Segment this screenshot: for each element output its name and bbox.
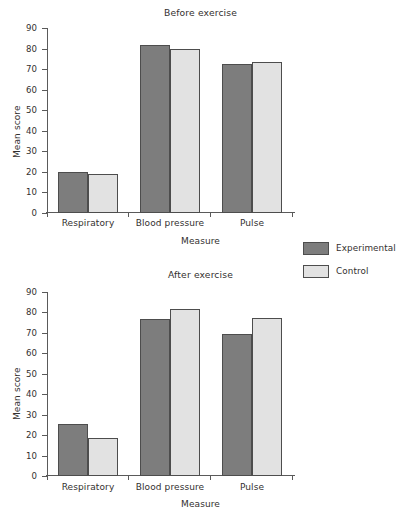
y-axis-tick xyxy=(42,456,47,457)
y-axis-tick xyxy=(42,353,47,354)
y-axis-tick-label: 60 xyxy=(26,348,37,358)
plot-area-after: 0102030405060708090 xyxy=(47,292,293,476)
y-axis-tick xyxy=(42,172,47,173)
legend-item-control: Control xyxy=(303,264,399,278)
bar-experimental-respiratory xyxy=(58,172,88,213)
y-axis-tick-label: 50 xyxy=(26,105,37,115)
y-axis-tick xyxy=(42,374,47,375)
x-axis-tick xyxy=(47,213,48,217)
legend-item-experimental: Experimental xyxy=(303,241,399,255)
y-axis-tick xyxy=(42,90,47,91)
y-axis-tick xyxy=(42,49,47,50)
legend-swatch-control xyxy=(303,265,329,278)
y-axis-tick xyxy=(42,435,47,436)
y-axis-tick xyxy=(42,292,47,293)
x-axis-label-after: Measure xyxy=(0,499,401,509)
x-axis-category-label: Blood pressure xyxy=(136,218,205,228)
y-axis-tick-label: 30 xyxy=(26,146,37,156)
bar-experimental-respiratory xyxy=(58,424,88,476)
x-axis-tick xyxy=(128,213,129,217)
x-axis-tick xyxy=(128,476,129,480)
legend-label-experimental: Experimental xyxy=(336,243,396,253)
y-axis-tick xyxy=(42,69,47,70)
y-axis-tick-label: 0 xyxy=(32,471,37,481)
y-axis-tick-label: 70 xyxy=(26,328,37,338)
y-axis-tick-label: 20 xyxy=(26,430,37,440)
chart-title-before: Before exercise xyxy=(0,7,401,18)
y-axis-tick-label: 10 xyxy=(26,187,37,197)
x-axis-tick xyxy=(292,476,293,480)
y-axis-tick-label: 90 xyxy=(26,287,37,297)
y-axis-tick xyxy=(42,415,47,416)
bar-experimental-pulse xyxy=(222,64,252,213)
y-axis-tick-label: 90 xyxy=(26,23,37,33)
legend-label-control: Control xyxy=(336,266,369,276)
bar-experimental-blood-pressure xyxy=(140,319,170,476)
y-axis-tick xyxy=(42,151,47,152)
y-axis-tick-label: 40 xyxy=(26,126,37,136)
y-axis-tick-label: 80 xyxy=(26,44,37,54)
chart-legend: Experimental Control xyxy=(303,241,399,287)
x-axis-tick xyxy=(210,476,211,480)
y-axis-tick xyxy=(42,394,47,395)
x-axis-category-label: Pulse xyxy=(240,482,264,492)
chart-panel-before: Before exercise Mean score 0102030405060… xyxy=(0,0,401,258)
y-axis-tick-label: 40 xyxy=(26,389,37,399)
y-axis-tick-label: 80 xyxy=(26,307,37,317)
y-axis-tick-label: 60 xyxy=(26,85,37,95)
y-axis-line-before xyxy=(47,28,48,213)
legend-swatch-experimental xyxy=(303,242,329,255)
x-axis-category-label: Respiratory xyxy=(62,218,115,228)
y-axis-tick-label: 20 xyxy=(26,167,37,177)
plot-area-before: 0102030405060708090 xyxy=(47,28,293,213)
bar-experimental-pulse xyxy=(222,334,252,476)
y-axis-line-after xyxy=(47,292,48,476)
bar-control-respiratory xyxy=(88,438,118,476)
y-axis-tick-label: 30 xyxy=(26,410,37,420)
y-axis-label-before: Mean score xyxy=(12,105,22,158)
y-axis-tick-label: 70 xyxy=(26,64,37,74)
y-axis-tick xyxy=(42,28,47,29)
x-axis-category-label: Blood pressure xyxy=(136,482,205,492)
bar-control-pulse xyxy=(252,62,282,213)
bar-control-blood-pressure xyxy=(170,309,200,476)
x-axis-tick xyxy=(292,213,293,217)
y-axis-label-after: Mean score xyxy=(12,367,22,420)
bar-control-pulse xyxy=(252,318,282,476)
y-axis-tick xyxy=(42,110,47,111)
y-axis-tick-label: 0 xyxy=(32,208,37,218)
bar-control-respiratory xyxy=(88,174,118,213)
y-axis-tick-label: 50 xyxy=(26,369,37,379)
bar-experimental-blood-pressure xyxy=(140,45,170,213)
y-axis-tick xyxy=(42,312,47,313)
x-axis-tick xyxy=(210,213,211,217)
y-axis-tick xyxy=(42,333,47,334)
bar-control-blood-pressure xyxy=(170,49,200,213)
y-axis-tick xyxy=(42,192,47,193)
x-axis-category-label: Pulse xyxy=(240,218,264,228)
x-axis-tick xyxy=(47,476,48,480)
x-axis-category-label: Respiratory xyxy=(62,482,115,492)
y-axis-tick-label: 10 xyxy=(26,451,37,461)
y-axis-tick xyxy=(42,131,47,132)
chart-panel-after: After exercise Mean score 01020304050607… xyxy=(0,262,401,514)
